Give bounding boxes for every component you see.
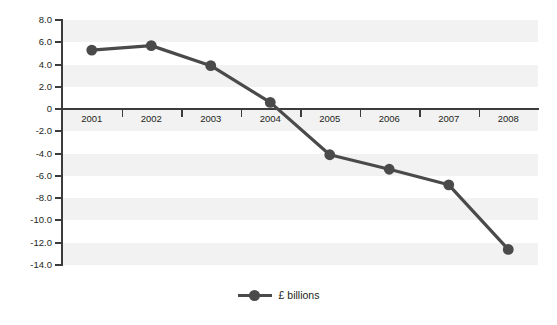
series-layer <box>0 0 557 325</box>
data-point[interactable] <box>443 179 454 190</box>
series-line <box>92 46 509 250</box>
y-axis-tick <box>55 108 63 110</box>
data-point[interactable] <box>205 60 216 71</box>
y-axis-tick <box>55 153 63 155</box>
data-point[interactable] <box>324 149 335 160</box>
legend-dot-icon <box>249 290 260 301</box>
legend-marker-icon <box>238 289 272 301</box>
data-point[interactable] <box>265 97 276 108</box>
line-chart: 8.06.04.02.00-2.0-4.0-6.0-8.0-10.0-12.0-… <box>0 0 557 325</box>
legend-label: £ billions <box>279 290 320 301</box>
y-axis-tick <box>55 19 63 21</box>
y-axis-tick <box>55 86 63 88</box>
y-axis-tick <box>55 130 63 132</box>
y-axis-tick <box>55 175 63 177</box>
data-point[interactable] <box>503 244 514 255</box>
data-point[interactable] <box>86 45 97 56</box>
y-axis-tick <box>55 219 63 221</box>
data-point[interactable] <box>146 40 157 51</box>
data-point[interactable] <box>384 164 395 175</box>
y-axis-tick <box>55 64 63 66</box>
legend: £ billions <box>0 289 557 301</box>
y-axis-tick <box>55 264 63 266</box>
y-axis-tick <box>55 41 63 43</box>
y-axis-tick <box>55 197 63 199</box>
y-axis-tick <box>55 242 63 244</box>
